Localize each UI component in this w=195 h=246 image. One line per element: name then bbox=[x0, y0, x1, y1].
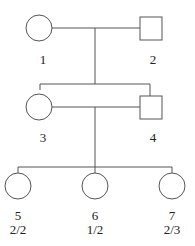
label-7: 7 bbox=[157, 208, 187, 223]
genotype-6: 1/2 bbox=[80, 222, 110, 237]
label-1: 1 bbox=[28, 52, 58, 67]
genotype-5: 2/2 bbox=[3, 222, 33, 237]
individual-1-female-symbol bbox=[26, 15, 52, 41]
label-4: 4 bbox=[138, 130, 168, 145]
label-2: 2 bbox=[138, 52, 168, 67]
individual-4-male-symbol bbox=[140, 96, 162, 119]
individual-5-female-symbol bbox=[5, 173, 31, 199]
individual-3-female-symbol bbox=[26, 94, 52, 120]
genotype-7: 2/3 bbox=[157, 222, 187, 237]
label-5: 5 bbox=[3, 208, 33, 223]
individual-7-female-symbol bbox=[159, 173, 185, 199]
individual-6-female-symbol bbox=[82, 173, 108, 199]
label-6: 6 bbox=[80, 208, 110, 223]
individual-2-male-symbol bbox=[140, 17, 162, 40]
label-3: 3 bbox=[28, 130, 58, 145]
